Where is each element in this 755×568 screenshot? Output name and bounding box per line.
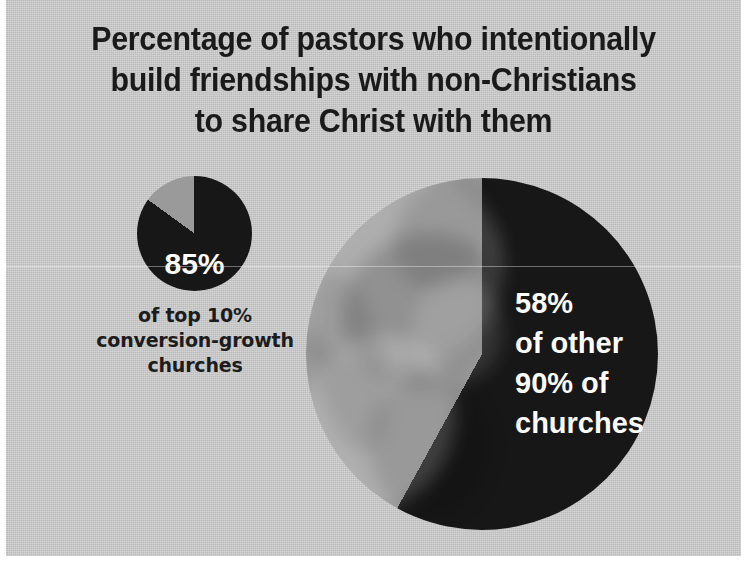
pie-caption-line-3: churches [84, 353, 306, 378]
poster-background: Percentage of pastors who intentionally … [6, 0, 741, 556]
chart-title: Percentage of pastors who intentionally … [35, 18, 711, 141]
chart-title-line-2: build friendships with non-Christians [35, 59, 711, 100]
pie-caption-line-1: of top 10% [84, 303, 306, 328]
pie-caption-top-10-percent-churches: of top 10% conversion-growth churches [84, 303, 306, 378]
pie-caption-large-line-3: churches [515, 403, 715, 443]
pie-caption-large-line-2: 90% of [515, 363, 715, 403]
pie-value-label-58: 58% [515, 283, 715, 323]
pie-caption-large-line-1: of other [515, 323, 715, 363]
pie-label-other-90-percent-churches: 58% of other 90% of churches [515, 283, 715, 443]
chart-title-line-1: Percentage of pastors who intentionally [35, 18, 711, 59]
chart-title-line-3: to share Christ with them [35, 100, 711, 141]
pie-caption-line-2: conversion-growth [84, 328, 306, 353]
chart-poster: Percentage of pastors who intentionally … [0, 0, 755, 568]
pie-value-label-85: 85% [137, 249, 252, 279]
